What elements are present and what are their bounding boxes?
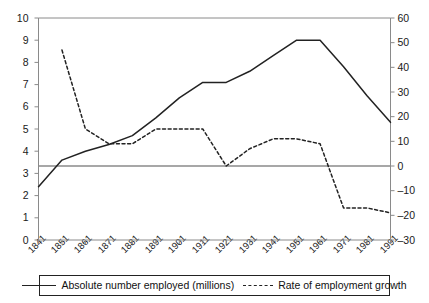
series-line-growth-rate xyxy=(62,50,391,213)
legend-line-dashed-icon xyxy=(243,285,273,286)
series-line-absolute-number xyxy=(39,40,391,187)
legend-label-absolute-number: Absolute number employed (millions) xyxy=(61,280,234,291)
legend-line-solid-icon xyxy=(22,285,56,286)
legend-label-growth-rate: Rate of employment growth xyxy=(278,280,406,291)
legend-item-growth-rate: Rate of employment growth xyxy=(243,280,406,291)
employment-chart: 012345678910 –30–20–100102030405060 1841… xyxy=(0,0,429,303)
plot-area xyxy=(0,0,429,303)
chart-legend: Absolute number employed (millions) Rate… xyxy=(39,275,390,296)
legend-item-absolute-number: Absolute number employed (millions) xyxy=(22,280,234,291)
